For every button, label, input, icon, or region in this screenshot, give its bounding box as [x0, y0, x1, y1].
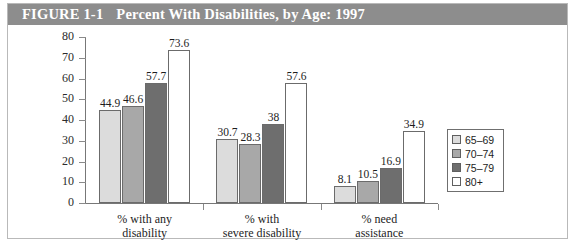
bar-value-label: 28.3 — [240, 131, 260, 144]
legend-color-swatch — [452, 135, 461, 144]
x-axis-category-label: % withsevere disability — [203, 212, 320, 240]
bar-group: 44.946.657.773.6 — [86, 37, 203, 203]
figure-title-bar: FIGURE 1-1Percent With Disabilities, by … — [8, 4, 567, 25]
y-axis-tick: 10 — [78, 182, 86, 183]
bar[interactable]: 8.1 — [334, 186, 356, 203]
bar-value-label: 44.9 — [100, 97, 120, 110]
bar[interactable]: 44.9 — [99, 110, 121, 203]
y-axis-tick-label: 30 — [48, 133, 74, 148]
x-axis-category-label: % with anydisability — [86, 212, 203, 240]
bar-value-label: 10.5 — [358, 168, 378, 181]
y-axis-tick-mark — [79, 182, 86, 183]
y-axis-tick-mark — [79, 141, 86, 142]
figure-title: FIGURE 1-1Percent With Disabilities, by … — [22, 6, 365, 23]
y-axis-tick-mark — [79, 99, 86, 100]
y-axis-tick-label: 60 — [48, 71, 74, 86]
y-axis-tick-label: 40 — [48, 112, 74, 127]
bar-value-label: 57.6 — [286, 70, 306, 83]
bar-series-container: 44.946.657.773.630.728.33857.68.110.516.… — [86, 37, 438, 203]
y-axis-tick-label: 20 — [48, 154, 74, 169]
category-label-line: % need — [321, 212, 438, 226]
legend-color-swatch — [452, 177, 461, 186]
y-axis-tick-label: 70 — [48, 50, 74, 65]
y-axis-tick: 20 — [78, 162, 86, 163]
chart-legend: 65–6970–7475–7980+ — [447, 129, 504, 192]
bar-value-label: 8.1 — [338, 173, 352, 186]
y-axis-tick: 0 — [78, 203, 86, 204]
figure-frame: FIGURE 1-1Percent With Disabilities, by … — [7, 3, 568, 239]
x-axis-category-label: % needassistance — [321, 212, 438, 240]
y-axis-tick-mark — [79, 162, 86, 163]
category-label-line: % with — [203, 212, 320, 226]
y-axis-tick-mark — [79, 79, 86, 80]
x-axis-line — [85, 203, 438, 204]
y-axis-tick: 30 — [78, 141, 86, 142]
bar-value-label: 73.6 — [169, 37, 189, 50]
y-axis-tick-label: 10 — [48, 174, 74, 189]
y-axis-tick: 70 — [78, 58, 86, 59]
y-axis-tick: 60 — [78, 79, 86, 80]
legend-color-swatch — [452, 163, 461, 172]
y-axis-tick-mark — [79, 58, 86, 59]
legend-item[interactable]: 65–69 — [452, 133, 499, 146]
y-axis-tick-mark — [79, 120, 86, 121]
y-axis-tick-mark — [79, 37, 86, 38]
bar[interactable]: 73.6 — [168, 50, 190, 203]
legend-item[interactable]: 75–79 — [452, 161, 499, 174]
figure-caption: Percent With Disabilities, by Age: 1997 — [116, 6, 365, 22]
legend-item-label: 70–74 — [465, 148, 494, 160]
bar-value-label: 57.7 — [146, 70, 166, 83]
x-axis-group-tick — [321, 204, 322, 210]
category-label-line: assistance — [321, 226, 438, 240]
figure-number: FIGURE 1-1 — [22, 6, 103, 22]
bar[interactable]: 16.9 — [380, 168, 402, 203]
y-axis-tick-mark — [79, 203, 86, 204]
bar[interactable]: 30.7 — [216, 139, 238, 203]
bar[interactable]: 46.6 — [122, 106, 144, 203]
bar-group: 8.110.516.934.9 — [321, 37, 438, 203]
bar-value-label: 46.6 — [123, 93, 143, 106]
bar[interactable]: 57.6 — [285, 83, 307, 203]
y-axis-tick: 50 — [78, 99, 86, 100]
category-label-line: % with any — [86, 212, 203, 226]
bar-chart-plot-area: 01020304050607080 44.946.657.773.630.728… — [78, 34, 450, 206]
bar[interactable]: 10.5 — [357, 181, 379, 203]
x-axis-group-tick — [438, 204, 439, 210]
y-axis-tick-label: 0 — [48, 195, 74, 210]
bar-value-label: 30.7 — [217, 126, 237, 139]
bar-group: 30.728.33857.6 — [203, 37, 320, 203]
x-axis-group-tick — [203, 204, 204, 210]
legend-item-label: 75–79 — [465, 162, 494, 174]
bar[interactable]: 34.9 — [403, 131, 425, 203]
category-label-line: disability — [86, 226, 203, 240]
y-axis-tick: 40 — [78, 120, 86, 121]
bar-value-label: 38 — [268, 111, 280, 124]
bar-value-label: 16.9 — [381, 155, 401, 168]
legend-item-label: 80+ — [465, 176, 483, 188]
legend-color-swatch — [452, 149, 461, 158]
y-axis-tick-label: 80 — [48, 29, 74, 44]
category-label-line: severe disability — [203, 226, 320, 240]
legend-item-label: 65–69 — [465, 134, 494, 146]
bar-value-label: 34.9 — [404, 118, 424, 131]
y-axis-tick-label: 50 — [48, 91, 74, 106]
bar[interactable]: 38 — [262, 124, 284, 203]
y-axis-tick: 80 — [78, 37, 86, 38]
legend-item[interactable]: 80+ — [452, 175, 499, 188]
bar[interactable]: 28.3 — [239, 144, 261, 203]
bar[interactable]: 57.7 — [145, 83, 167, 203]
legend-item[interactable]: 70–74 — [452, 147, 499, 160]
